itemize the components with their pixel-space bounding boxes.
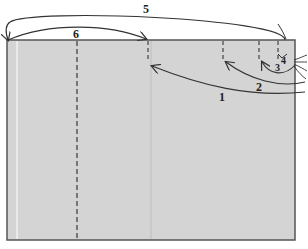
fan-strokes — [294, 55, 307, 79]
label-2: 2 — [256, 80, 262, 94]
label-3: 3 — [275, 62, 280, 73]
label-4: 4 — [281, 55, 286, 66]
arrow-5 — [6, 16, 285, 40]
label-1: 1 — [219, 90, 225, 104]
label-5: 5 — [143, 2, 149, 16]
label-6: 6 — [73, 27, 79, 41]
arrow-5-head — [278, 24, 286, 39]
fold-diagram: 5 6 1 2 3 4 — [0, 0, 308, 249]
